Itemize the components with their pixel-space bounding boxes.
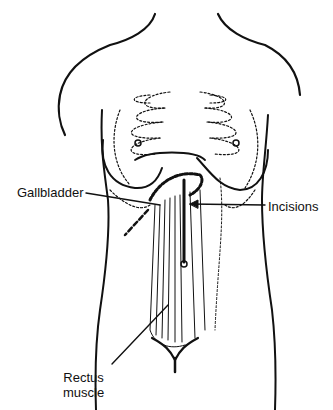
label-rectus-line1: Rectus <box>63 370 104 385</box>
right-torso-outline <box>262 115 276 410</box>
incisions-leader <box>190 204 265 205</box>
right-shoulder-outline <box>218 14 300 95</box>
anatomy-diagram: Gallbladder Incisions Rectus muscle <box>0 0 333 410</box>
label-gallbladder: Gallbladder <box>17 185 84 200</box>
right-breast-outline <box>197 150 268 190</box>
label-rectus-muscle: Rectus muscle <box>63 370 104 400</box>
label-rectus-line2: muscle <box>63 385 104 400</box>
left-shoulder-outline <box>59 14 155 135</box>
rectus-muscle <box>150 190 205 347</box>
rectus-leader <box>112 305 168 364</box>
label-incisions: Incisions <box>268 199 319 214</box>
dashed-incision <box>125 210 148 235</box>
